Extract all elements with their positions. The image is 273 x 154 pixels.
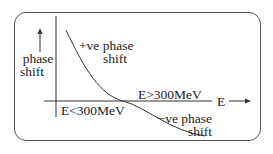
negative-phase-line2: shift — [150, 125, 212, 138]
y-axis-arrow-icon — [38, 28, 43, 52]
positive-phase-label: +ve phase shift — [79, 39, 133, 65]
high-energy-label: E>300MeV — [138, 88, 202, 101]
low-energy-label: E<300MeV — [61, 104, 125, 117]
y-axis-label-line2: shift — [20, 65, 56, 78]
y-axis-label: phase shift — [20, 52, 56, 78]
positive-phase-line2: shift — [79, 52, 133, 65]
x-axis-arrow-icon — [229, 99, 251, 104]
x-axis-label: E — [217, 95, 225, 108]
negative-phase-label: −ve phase shift — [150, 112, 212, 138]
